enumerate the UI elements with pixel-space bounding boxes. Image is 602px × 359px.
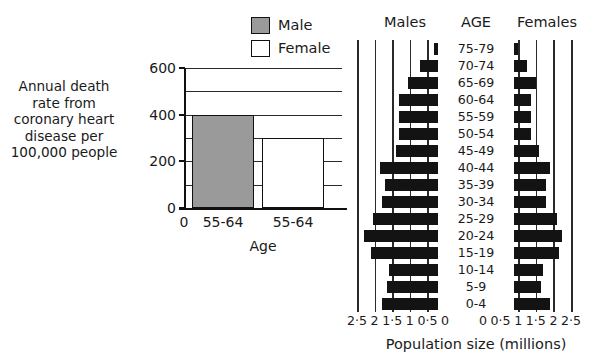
y-axis [184,68,186,208]
pyramid-age-label: 45-49 [438,142,514,159]
y-axis-tick [179,160,185,162]
pyramid-bar-male[interactable] [382,196,445,208]
population-pyramid: Males AGE Females Population size (milli… [350,0,602,359]
pyramid-tick-label-female: 1 [514,313,522,328]
legend-swatch-male-icon [251,17,270,34]
x-axis [179,208,347,210]
pyramid-row: 60-64 [350,91,602,108]
pyramid-tick-label-female: 0 [479,313,487,328]
pyramid-age-label: 10-14 [438,261,514,278]
pyramid-tick-label-female: 2·5 [561,313,581,328]
y-axis-tick [179,67,185,69]
pyramid-row: 40-44 [350,159,602,176]
pyramid-age-label: 15-19 [438,244,514,261]
pyramid-age-label: 65-69 [438,74,514,91]
bar-chart-legend: Male Female [251,14,347,60]
bar-chart-x-axis-title: Age [184,238,342,254]
pyramid-bar-male[interactable] [389,264,445,276]
pyramid-heading-females: Females [492,14,602,30]
pyramid-axis-title: Population size (millions) [350,336,602,352]
pyramid-bar-male[interactable] [364,230,445,242]
pyramid-row: 75-79 [350,40,602,57]
coronary-heart-disease-bar-chart: Male Female Annual death rate from coron… [0,0,350,280]
pyramid-row: 10-14 [350,261,602,278]
pyramid-row: 20-24 [350,227,602,244]
pyramid-row: 55-59 [350,108,602,125]
pyramid-tick-label-female: 2 [549,313,557,328]
gridline [184,91,342,92]
pyramid-row: 65-69 [350,74,602,91]
legend-label-female: Female [278,41,330,56]
x-axis-category-label: 55-64 [192,214,254,230]
pyramid-age-label: 55-59 [438,108,514,125]
pyramid-row: 45-49 [350,142,602,159]
pyramid-tick-label-male: 1·5 [382,313,402,328]
pyramid-tick-label-male: 1 [406,313,414,328]
x-axis-origin-label: 0 [170,214,198,230]
pyramid-age-label: 70-74 [438,57,514,74]
pyramid-row: 35-39 [350,176,602,193]
pyramid-row: 25-29 [350,210,602,227]
figure-canvas: Male Female Annual death rate from coron… [0,0,602,359]
pyramid-row: 5-9 [350,278,602,295]
legend-swatch-female-icon [251,40,270,57]
pyramid-tick-label-female: 1·5 [526,313,546,328]
pyramid-bar-male[interactable] [380,162,445,174]
legend-item-male: Male [251,14,347,37]
pyramid-tick-label-male: 2·5 [347,313,367,328]
pyramid-row: 15-19 [350,244,602,261]
bar-chart-y-axis-caption: Annual death rate from coronary heart di… [6,78,122,161]
pyramid-bar-male[interactable] [382,298,445,310]
bar-male-55-64[interactable] [192,115,254,208]
y-axis-tick-label: 0 [167,201,176,215]
pyramid-tick-label-male: 0 [441,313,449,328]
y-axis-tick-label: 600 [149,61,176,75]
pyramid-bar-male[interactable] [387,281,445,293]
pyramid-tick-label-female: 0·5 [491,313,511,328]
pyramid-age-label: 35-39 [438,176,514,193]
pyramid-age-label: 50-54 [438,125,514,142]
pyramid-tick-label-male: 2 [371,313,379,328]
pyramid-row: 0-4 [350,295,602,312]
pyramid-heading-males: Males [350,14,460,30]
y-axis-tick-label: 200 [149,154,176,168]
pyramid-age-label: 75-79 [438,40,514,57]
legend-item-female: Female [251,37,347,60]
bar-chart-plot-area: 0200400600 [184,68,342,208]
y-axis-tick-label: 400 [149,108,176,122]
pyramid-age-label: 30-34 [438,193,514,210]
y-axis-tick [179,114,185,116]
pyramid-row: 70-74 [350,57,602,74]
x-axis-category-label: 55-64 [262,214,324,230]
pyramid-age-label: 40-44 [438,159,514,176]
pyramid-age-label: 0-4 [438,295,514,312]
gridline [184,68,342,69]
pyramid-age-label: 20-24 [438,227,514,244]
legend-label-male: Male [278,18,312,33]
pyramid-age-label: 60-64 [438,91,514,108]
pyramid-tick-label-male: 0·5 [417,313,437,328]
pyramid-bar-male[interactable] [373,213,445,225]
pyramid-bar-male[interactable] [371,247,445,259]
bar-female-55-64[interactable] [262,138,324,208]
pyramid-row: 50-54 [350,125,602,142]
pyramid-age-label: 25-29 [438,210,514,227]
y-axis-tick [179,207,185,209]
pyramid-row: 30-34 [350,193,602,210]
pyramid-age-label: 5-9 [438,278,514,295]
pyramid-bar-male[interactable] [385,179,445,191]
